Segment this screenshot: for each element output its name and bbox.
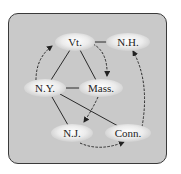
arrow-mass-nj	[84, 97, 98, 122]
node-label: N.Y.	[35, 82, 55, 94]
node-vt: Vt.	[55, 33, 95, 51]
node-mass: Mass.	[79, 79, 123, 97]
node-nj: N.J.	[51, 124, 93, 142]
node-label: Vt.	[68, 36, 82, 48]
edge-ny-conn	[60, 94, 118, 126]
node-ny: N.Y.	[24, 79, 66, 97]
node-label: Conn.	[115, 127, 142, 139]
edge-ny-nj	[52, 97, 68, 125]
node-conn: Conn.	[105, 124, 151, 142]
node-nh: N.H.	[106, 33, 150, 51]
node-label: N.J.	[63, 127, 81, 139]
arrow-vt-mass	[93, 44, 107, 76]
node-label: Mass.	[88, 82, 114, 94]
state-graph: Vt. N.H. N.Y. Mass. N.J. Conn.	[0, 0, 181, 174]
arrow-conn-nh	[133, 51, 145, 127]
edge-vt-mass	[80, 50, 96, 80]
edge-vt-ny	[51, 50, 70, 80]
node-label: N.H.	[117, 36, 139, 48]
arrow-nj-conn	[80, 142, 124, 147]
arrow-ny-vt	[36, 46, 52, 80]
